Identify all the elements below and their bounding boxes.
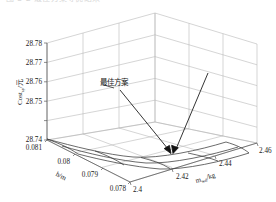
mwd-axis-label-group: mwd/kg [195, 171, 217, 185]
mwd-tick-0: 2.4 [133, 186, 142, 194]
h-tick-0: 0.081 [26, 144, 43, 152]
h-axis-tick-labels: 0.081 0.08 0.079 0.078 [26, 144, 127, 194]
back-left-wall-grid [47, 13, 155, 140]
mwd-axis-label: mwd/kg [195, 171, 217, 185]
cost-tick-3: 28.75 [26, 98, 43, 106]
annotation-label: 最佳方案 [100, 77, 129, 87]
cost-tick-1: 28.77 [26, 59, 43, 67]
h-axis-label-group: h/m [54, 170, 68, 182]
cost-axis-tick-labels: 28.78 28.77 28.76 28.75 28.74 [26, 40, 43, 144]
figure-canvas: 图 3-2 最佳方案寻优结果 [0, 0, 276, 202]
h-tick-1: 0.08 [57, 158, 70, 166]
mwd-axis-spine [130, 143, 257, 182]
cost-tick-2: 28.76 [26, 78, 43, 86]
h-tick-3: 0.078 [110, 185, 127, 193]
cost-axis-label: Costsy/元 [16, 79, 25, 105]
floor-grid [47, 122, 257, 182]
mwd-tick-1: 2.42 [176, 173, 189, 181]
h-axis-label: h/m [54, 170, 68, 182]
mwd-tick-3: 2.46 [259, 147, 272, 155]
cost-tick-0: 28.78 [26, 40, 43, 48]
cost-axis-label-group: Costsy/元 [16, 79, 25, 105]
h-tick-2: 0.079 [82, 171, 99, 179]
surface-plot-svg: 最佳方案 28.78 28.77 28.76 28.75 28.74 Costs… [0, 0, 276, 202]
mwd-tick-2: 2.44 [219, 160, 232, 168]
